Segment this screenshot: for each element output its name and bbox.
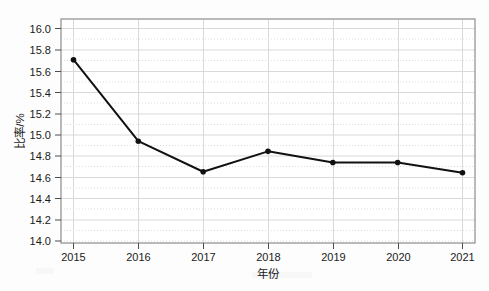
data-point xyxy=(136,138,142,144)
data-point xyxy=(71,57,77,63)
y-tick-label: 14.4 xyxy=(30,193,51,205)
y-tick-label: 15.0 xyxy=(30,129,51,141)
x-tick-label: 2019 xyxy=(321,251,345,263)
x-tick-label: 2021 xyxy=(450,251,474,263)
y-tick-label: 14.2 xyxy=(30,214,51,226)
x-tick-label: 2016 xyxy=(126,251,150,263)
data-point xyxy=(330,160,336,166)
y-tick-label: 14.0 xyxy=(30,235,51,247)
data-point xyxy=(460,170,466,176)
y-tick-label: 15.4 xyxy=(30,87,51,99)
data-point xyxy=(395,160,401,166)
data-point xyxy=(200,169,206,175)
data-point xyxy=(265,149,271,155)
y-tick-label: 15.6 xyxy=(30,66,51,78)
y-tick-label: 14.6 xyxy=(30,172,51,184)
line-chart: 16.0 15.8 15.6 15.4 15.2 15.0 14.8 14.6 … xyxy=(0,0,489,291)
y-tick-label: 15.2 xyxy=(30,108,51,120)
y-tick-label: 14.8 xyxy=(30,150,51,162)
y-tick-label: 15.8 xyxy=(30,44,51,56)
y-axis-title: 比率/% xyxy=(13,113,26,148)
y-tick-label: 16.0 xyxy=(30,23,51,35)
x-tick-label: 2017 xyxy=(191,251,215,263)
chart-page: 16.0 15.8 15.6 15.4 15.2 15.0 14.8 14.6 … xyxy=(0,0,489,291)
x-axis-title: 年份 xyxy=(257,267,280,280)
x-tick-label: 2020 xyxy=(386,251,410,263)
x-tick-label: 2018 xyxy=(256,251,280,263)
x-tick-label: 2015 xyxy=(61,251,85,263)
